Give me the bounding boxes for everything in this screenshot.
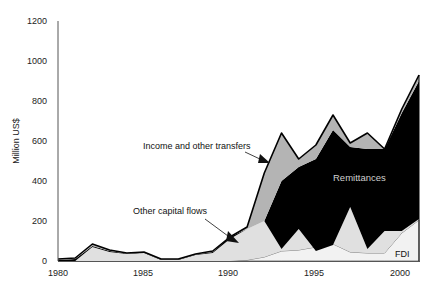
label-other-capital-flows: Other capital flows bbox=[133, 206, 208, 216]
y-tick-400: 400 bbox=[32, 176, 47, 186]
y-tick-800: 800 bbox=[32, 96, 47, 106]
y-tick-labels: 0 200 400 600 800 1000 1200 bbox=[27, 16, 47, 266]
label-remittances: Remittances bbox=[333, 172, 386, 183]
y-tick-1000: 1000 bbox=[27, 56, 47, 66]
x-tick-1985: 1985 bbox=[133, 268, 153, 278]
y-tick-1200: 1200 bbox=[27, 16, 47, 26]
y-axis-title: Million US$ bbox=[11, 118, 21, 164]
x-tick-1980: 1980 bbox=[48, 268, 68, 278]
label-fdi: FDI bbox=[395, 249, 410, 259]
label-income-transfers: Income and other transfers bbox=[143, 141, 251, 151]
area-remittances bbox=[58, 81, 419, 261]
stacked-area-chart: 0 200 400 600 800 1000 1200 1980 1985 19… bbox=[0, 0, 429, 294]
arrowhead-income-transfers bbox=[258, 154, 270, 163]
y-tick-600: 600 bbox=[32, 136, 47, 146]
x-tick-1995: 1995 bbox=[304, 268, 324, 278]
y-tick-0: 0 bbox=[42, 256, 47, 266]
x-tick-1990: 1990 bbox=[218, 268, 238, 278]
x-tick-labels: 1980 1985 1990 1995 2000 bbox=[48, 268, 410, 278]
y-tick-200: 200 bbox=[32, 216, 47, 226]
arrow-other-capital-flows bbox=[205, 219, 228, 236]
area-layers bbox=[58, 75, 419, 261]
x-tick-2000: 2000 bbox=[390, 268, 410, 278]
